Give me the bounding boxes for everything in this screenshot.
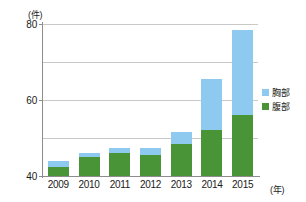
bar-segment-chest[interactable] bbox=[140, 148, 161, 156]
legend-item[interactable]: 胸部 bbox=[262, 86, 289, 98]
bar-segment-chest[interactable] bbox=[201, 79, 222, 130]
y-axis-tick-label: 80 bbox=[26, 19, 37, 30]
bar-segment-chest[interactable] bbox=[79, 153, 100, 157]
bar-segment-chest[interactable] bbox=[232, 30, 253, 116]
y-axis-tick bbox=[39, 176, 43, 177]
bar-segment-abdomen[interactable] bbox=[201, 130, 222, 176]
bar-group[interactable] bbox=[201, 79, 222, 176]
bar-group[interactable] bbox=[109, 148, 130, 177]
bar-segment-chest[interactable] bbox=[171, 132, 192, 143]
legend-item[interactable]: 腹部 bbox=[262, 100, 289, 112]
bar-group[interactable] bbox=[48, 161, 69, 176]
x-axis-tick-label: 2014 bbox=[195, 179, 229, 190]
bar-series-container bbox=[43, 24, 258, 176]
legend-item-label: 腹部 bbox=[272, 100, 289, 113]
legend-item-label: 胸部 bbox=[272, 86, 289, 99]
x-axis-tick-label: 2013 bbox=[164, 179, 198, 190]
legend-swatch-icon bbox=[262, 89, 269, 96]
bar-segment-abdomen[interactable] bbox=[171, 144, 192, 176]
x-axis-tick-label: 2009 bbox=[41, 179, 75, 190]
x-axis-tick-label: 2015 bbox=[226, 179, 260, 190]
bar-segment-abdomen[interactable] bbox=[232, 115, 253, 176]
stacked-bar-chart: (件) (年) 020406080 2009201020112012201320… bbox=[0, 0, 306, 202]
bar-segment-abdomen[interactable] bbox=[48, 167, 69, 177]
bar-group[interactable] bbox=[232, 30, 253, 176]
y-axis-tick-label: 60 bbox=[26, 95, 37, 106]
bar-segment-chest[interactable] bbox=[109, 148, 130, 154]
plot-area: 020406080 bbox=[43, 24, 258, 176]
bar-segment-chest[interactable] bbox=[48, 161, 69, 167]
bar-group[interactable] bbox=[140, 148, 161, 177]
bar-segment-abdomen[interactable] bbox=[140, 155, 161, 176]
x-axis-tick-label: 2011 bbox=[103, 179, 137, 190]
legend-swatch-icon bbox=[262, 103, 269, 110]
bar-segment-abdomen[interactable] bbox=[109, 153, 130, 176]
gridline: 0 bbox=[43, 176, 258, 177]
x-axis-tick-label: 2012 bbox=[134, 179, 168, 190]
bar-segment-abdomen[interactable] bbox=[79, 157, 100, 176]
x-axis-tick-label: 2010 bbox=[72, 179, 106, 190]
bar-group[interactable] bbox=[171, 132, 192, 176]
y-axis-tick-label: 40 bbox=[26, 171, 37, 182]
chart-legend: 胸部腹部 bbox=[262, 86, 289, 114]
x-axis-unit-label: (年) bbox=[270, 183, 284, 196]
bar-group[interactable] bbox=[79, 153, 100, 176]
